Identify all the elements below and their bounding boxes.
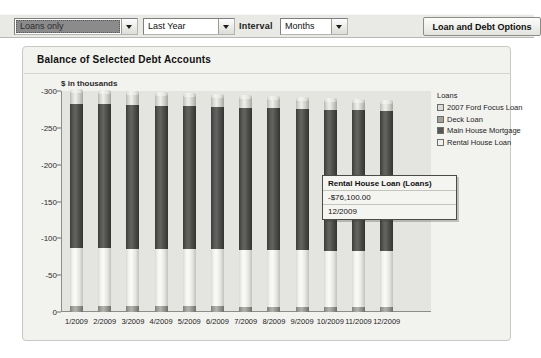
y-axis-tick-label: -300 xyxy=(41,87,57,96)
x-axis-tick-label: 12/2009 xyxy=(373,317,400,326)
axis-unit-label: $ in thousands xyxy=(61,79,117,88)
y-axis-tick-mark xyxy=(57,127,61,128)
bar-segment[interactable] xyxy=(352,307,365,312)
bar-segment[interactable] xyxy=(267,250,280,307)
bar-segment[interactable] xyxy=(70,104,83,248)
bar-segment[interactable] xyxy=(70,306,83,312)
x-axis-tick-label: 9/2009 xyxy=(291,317,314,326)
bar-segment[interactable] xyxy=(239,307,252,312)
bar-segment[interactable] xyxy=(211,306,224,312)
chart-bar[interactable] xyxy=(296,99,309,312)
bar-segment[interactable] xyxy=(296,109,309,250)
filter-toolbar: Loans only Last Year Interval Months Loa… xyxy=(0,14,534,38)
bar-segment[interactable] xyxy=(183,249,196,306)
bar-segment[interactable] xyxy=(98,248,111,306)
bar-segment[interactable] xyxy=(211,107,224,250)
bar-top-cap xyxy=(126,91,139,95)
interval-filter-dropdown[interactable]: Months xyxy=(280,18,348,35)
bar-segment[interactable] xyxy=(183,106,196,249)
chart-panel: Balance of Selected Debt Accounts $ in t… xyxy=(22,46,511,341)
legend-item-label: 2007 Ford Focus Loan xyxy=(447,103,522,112)
chart-bar[interactable] xyxy=(98,92,111,312)
bar-segment[interactable] xyxy=(126,105,139,249)
y-axis-tick-mark xyxy=(57,201,61,202)
bar-segment[interactable] xyxy=(183,306,196,312)
legend-swatch-icon xyxy=(437,116,444,123)
bar-segment[interactable] xyxy=(126,249,139,307)
chart-bar[interactable] xyxy=(70,91,83,312)
page-title: Balance of Selected Debt Accounts xyxy=(37,54,211,65)
legend-item[interactable]: Deck Loan xyxy=(437,115,510,124)
chart-bar[interactable] xyxy=(183,95,196,312)
bar-segment[interactable] xyxy=(324,307,337,312)
chevron-down-icon[interactable] xyxy=(218,19,234,34)
bar-segment[interactable] xyxy=(155,249,168,306)
chart-bar[interactable] xyxy=(211,96,224,312)
y-axis-tick-mark xyxy=(57,312,61,313)
y-axis-tick-mark xyxy=(57,91,61,92)
x-axis-tick-label: 5/2009 xyxy=(178,317,201,326)
data-point-tooltip: Rental House Loan (Loans) -$76,100.00 12… xyxy=(322,175,457,220)
bar-segment[interactable] xyxy=(352,251,365,307)
bar-segment[interactable] xyxy=(126,306,139,312)
y-axis-tick-label: -50 xyxy=(45,271,57,280)
x-axis-tick-label: 3/2009 xyxy=(121,317,144,326)
bar-top-cap xyxy=(380,100,393,104)
legend-title: Loans xyxy=(437,91,510,100)
tooltip-title: Rental House Loan (Loans) xyxy=(323,176,456,191)
chevron-down-icon[interactable] xyxy=(331,19,347,34)
interval-filter-value: Months xyxy=(281,19,331,34)
bar-segment[interactable] xyxy=(267,307,280,312)
x-axis-tick-label: 8/2009 xyxy=(262,317,285,326)
bar-top-cap xyxy=(324,98,337,102)
bar-segment[interactable] xyxy=(98,104,111,248)
title-divider xyxy=(24,73,511,74)
chart-bar[interactable] xyxy=(239,97,252,312)
legend-item[interactable]: 2007 Ford Focus Loan xyxy=(437,103,510,112)
bar-segment[interactable] xyxy=(155,106,168,249)
bar-segment[interactable] xyxy=(239,250,252,307)
x-axis-tick-label: 7/2009 xyxy=(234,317,257,326)
account-filter-dropdown[interactable]: Loans only xyxy=(14,18,138,35)
legend-item[interactable]: Main House Mortgage xyxy=(437,126,510,135)
bar-segment[interactable] xyxy=(239,108,252,250)
bar-top-cap xyxy=(70,89,83,93)
legend-swatch-icon xyxy=(437,139,444,146)
x-axis-tick-label: 6/2009 xyxy=(206,317,229,326)
bar-top-cap xyxy=(155,92,168,96)
y-axis-tick-label: -200 xyxy=(41,160,57,169)
chart-bar[interactable] xyxy=(155,94,168,312)
bar-segment[interactable] xyxy=(211,249,224,306)
legend-item[interactable]: Rental House Loan xyxy=(437,138,510,147)
interval-label: Interval xyxy=(239,21,273,31)
bar-segment[interactable] xyxy=(267,108,280,250)
account-filter-value: Loans only xyxy=(16,20,120,33)
y-axis-tick-label: -100 xyxy=(41,234,57,243)
bar-top-cap xyxy=(98,90,111,94)
bar-segment[interactable] xyxy=(380,307,393,312)
loan-and-debt-options-button[interactable]: Loan and Debt Options xyxy=(423,17,541,36)
bar-segment[interactable] xyxy=(296,307,309,312)
bar-segment[interactable] xyxy=(70,248,83,306)
legend-items: 2007 Ford Focus LoanDeck LoanMain House … xyxy=(437,103,510,147)
x-axis-tick-label: 10/2009 xyxy=(317,317,344,326)
y-axis-tick-mark xyxy=(57,275,61,276)
period-filter-dropdown[interactable]: Last Year xyxy=(143,18,235,35)
bar-segment[interactable] xyxy=(380,251,393,307)
chevron-down-icon[interactable] xyxy=(121,19,137,34)
bar-segment[interactable] xyxy=(155,306,168,312)
chart-legend: Loans 2007 Ford Focus LoanDeck LoanMain … xyxy=(437,91,510,149)
x-axis-tick-label: 4/2009 xyxy=(150,317,173,326)
y-axis-tick-label: -150 xyxy=(41,197,57,206)
bar-segment[interactable] xyxy=(296,250,309,307)
legend-item-label: Main House Mortgage xyxy=(447,126,521,135)
chart-bar[interactable] xyxy=(126,93,139,312)
chart-bar[interactable] xyxy=(267,98,280,312)
y-axis-tick-mark xyxy=(57,164,61,165)
bar-segment[interactable] xyxy=(324,251,337,307)
y-axis-tick-mark xyxy=(57,238,61,239)
bar-top-cap xyxy=(296,97,309,101)
bar-segment[interactable] xyxy=(98,306,111,312)
bar-top-cap xyxy=(267,96,280,100)
legend-swatch-icon xyxy=(437,104,444,111)
